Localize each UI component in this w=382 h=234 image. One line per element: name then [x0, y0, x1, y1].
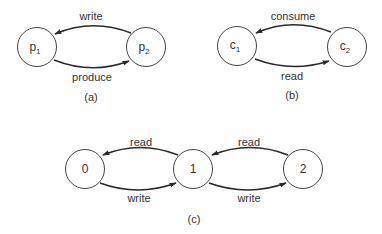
diagram-a: write produce p1 p2 (a): [18, 10, 166, 103]
diagram-c: read write read write 0 1 2 (c): [66, 136, 323, 225]
node-2: 2: [284, 150, 323, 189]
caption-b: (b): [285, 89, 298, 101]
edge-label-produce: produce: [72, 71, 112, 83]
edge-label-read-left: read: [130, 136, 152, 148]
node-c2: c2: [328, 28, 367, 67]
node-2-label: 2: [300, 162, 307, 176]
edge-label-write: write: [78, 10, 102, 22]
edge-label-write-left: write: [126, 192, 150, 204]
node-c1: c1: [218, 27, 257, 66]
caption-c: (c): [188, 213, 201, 225]
edge-0-to-1-write: [100, 183, 176, 190]
caption-a: (a): [84, 91, 97, 103]
edge-label-read-right: read: [238, 136, 260, 148]
edge-c2-to-c1-consume: [256, 25, 331, 33]
edge-c1-to-c2-read: [255, 59, 329, 67]
edge-label-write-right: write: [236, 192, 260, 204]
state-diagram: write produce p1 p2 (a) consume read c1 …: [0, 0, 382, 234]
edge-1-to-2-write: [209, 183, 286, 190]
node-0: 0: [66, 150, 105, 189]
node-0-label: 0: [82, 162, 89, 176]
diagram-b: consume read c1 c2 (b): [218, 10, 367, 101]
edge-label-consume: consume: [271, 10, 316, 22]
edge-p2-to-p1-write: [55, 26, 131, 34]
edge-2-to-1-read: [212, 148, 288, 156]
node-1-label: 1: [190, 162, 197, 176]
node-1: 1: [174, 150, 213, 189]
edge-1-to-0-read: [103, 148, 178, 156]
node-p1: p1: [18, 28, 57, 67]
edge-label-read: read: [281, 70, 303, 82]
node-p2: p2: [127, 28, 166, 67]
edge-p1-to-p2-produce: [54, 60, 129, 68]
